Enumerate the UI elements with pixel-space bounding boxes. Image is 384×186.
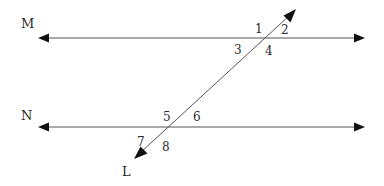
line-l-transversal xyxy=(134,9,296,159)
angle-6-label: 6 xyxy=(193,110,201,124)
angle-3-label: 3 xyxy=(234,43,242,57)
arrow-left-icon xyxy=(38,34,49,43)
angle-7-label: 7 xyxy=(137,135,145,149)
angle-8-label: 8 xyxy=(162,140,170,154)
angle-4-label: 4 xyxy=(265,44,273,58)
arrow-left-icon xyxy=(38,123,49,132)
label-m: M xyxy=(21,16,34,31)
arrow-right-icon xyxy=(354,34,365,43)
angle-5-label: 5 xyxy=(163,110,171,124)
arrow-right-icon xyxy=(354,123,365,132)
diagram-canvas: M N L 1 2 3 4 5 6 7 8 xyxy=(0,0,384,186)
line-l-segment xyxy=(140,15,290,153)
label-n: N xyxy=(21,108,32,123)
angle-1-label: 1 xyxy=(255,22,263,36)
label-l: L xyxy=(122,164,131,179)
arrow-up-right-icon xyxy=(284,9,297,23)
line-m xyxy=(38,34,365,43)
line-n xyxy=(38,123,365,132)
geometry-figure: M N L 1 2 3 4 5 6 7 8 xyxy=(0,0,384,186)
angle-2-label: 2 xyxy=(281,23,289,37)
